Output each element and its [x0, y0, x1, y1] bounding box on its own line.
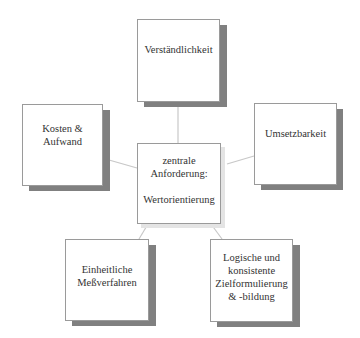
node-label: Umsetzbarkeit — [261, 127, 330, 140]
node-label: Logische und konsistente Zielformulierun… — [211, 251, 291, 303]
connector-right — [227, 156, 254, 164]
node-kosten-aufwand: Kosten & Aufwand — [22, 104, 103, 186]
center-node-wertorientierung: zentrale Anforderung: Wertorientierung — [137, 143, 221, 224]
node-verstaendlichkeit: Verständlichkeit — [137, 19, 220, 102]
node-label: Kosten & Aufwand — [38, 122, 87, 148]
node-einheitliche-messverfahren: Einheitliche Meßverfahren — [65, 239, 149, 321]
node-logische-zielformulierung: Logische und konsistente Zielformulierun… — [210, 239, 293, 322]
node-label: Verständlichkeit — [140, 43, 216, 56]
connector-left — [109, 160, 137, 168]
node-label: Einheitliche Meßverfahren — [73, 263, 140, 289]
center-label: zentrale Anforderung: Wertorientierung — [139, 154, 218, 206]
node-umsetzbarkeit: Umsetzbarkeit — [254, 103, 337, 185]
